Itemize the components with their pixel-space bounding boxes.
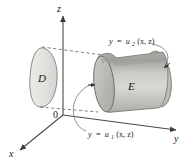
projection-region-D: D: [30, 48, 57, 107]
type-2-solid-region-diagram: D E: [0, 0, 190, 166]
region-label-E: E: [127, 80, 135, 92]
axis-label-y: y: [173, 133, 179, 144]
upper-eq-operator: =: [117, 37, 122, 46]
lower-eq-subscript: 1: [111, 134, 114, 140]
upper-eq-function: u: [126, 37, 130, 46]
leader-lower-surface: [73, 84, 95, 131]
lower-eq-arguments: (x, z): [116, 130, 134, 139]
lower-eq-operator: =: [96, 130, 101, 139]
axis-label-x: x: [8, 148, 14, 159]
label-lower-surface-equation: y = u 1 (x, z): [87, 130, 134, 141]
lower-eq-lhs: y: [87, 130, 92, 139]
upper-eq-subscript: 2: [132, 41, 135, 47]
solid-region-E: E: [91, 50, 174, 113]
region-label-D: D: [37, 72, 46, 84]
lower-eq-function: u: [105, 130, 109, 139]
axis-label-origin: 0: [53, 109, 58, 120]
x-axis: [20, 115, 63, 150]
label-upper-surface-equation: y = u 2 (x, z): [108, 37, 155, 48]
axis-label-z: z: [56, 3, 61, 14]
upper-eq-arguments: (x, z): [137, 37, 155, 46]
upper-eq-lhs: y: [108, 37, 113, 46]
dashed-bottom-connector: [40, 107, 98, 112]
figure-container: D E: [0, 0, 190, 166]
